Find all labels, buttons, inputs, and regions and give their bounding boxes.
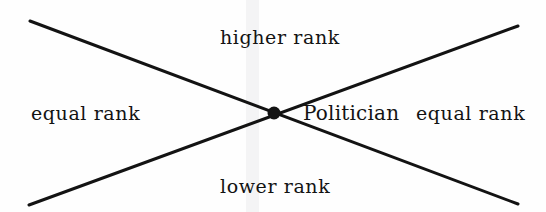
center-point-label-politician: Politician <box>303 103 399 123</box>
sector-label-higher-rank: higher rank <box>220 28 340 47</box>
sector-label-lower-rank: lower rank <box>220 177 330 196</box>
center-point-dot <box>268 107 281 120</box>
rank-relation-diagram: higher rank lower rank equal rank equal … <box>0 0 546 212</box>
sector-label-equal-rank-left: equal rank <box>31 104 140 123</box>
sector-label-equal-rank-right: equal rank <box>416 104 525 123</box>
